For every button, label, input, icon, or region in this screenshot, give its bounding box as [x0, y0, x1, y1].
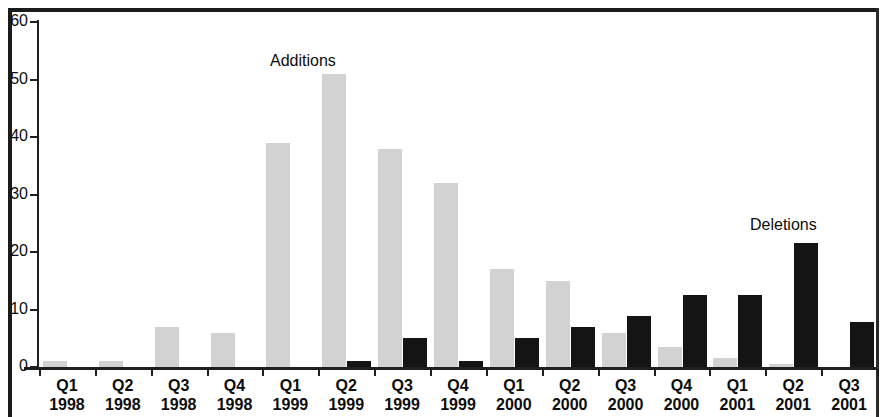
bar-group: [709, 0, 765, 370]
bar-deletions: [850, 322, 874, 367]
x-label-year: 1998: [39, 395, 95, 414]
x-label-year: 1998: [207, 395, 263, 414]
x-axis-label-q1-1998: Q11998: [39, 376, 95, 414]
x-label-quarter: Q2: [318, 376, 374, 395]
x-axis-label-q2-2001: Q22001: [765, 376, 821, 414]
bar-group: [765, 0, 821, 370]
y-axis-tick-0: [30, 366, 38, 368]
bar-additions: [43, 361, 67, 367]
x-axis-tick: [821, 368, 823, 376]
x-label-quarter: Q3: [151, 376, 207, 395]
x-label-quarter: Q2: [542, 376, 598, 395]
bar-group: [374, 0, 430, 370]
x-label-quarter: Q3: [374, 376, 430, 395]
x-axis-tick: [542, 368, 544, 376]
x-axis-label-q3-1998: Q31998: [151, 376, 207, 414]
bar-additions: [155, 327, 179, 367]
x-axis-tick: [39, 368, 41, 376]
x-axis-tick: [709, 368, 711, 376]
x-label-quarter: Q4: [430, 376, 486, 395]
x-axis-tick: [207, 368, 209, 376]
y-axis-tick-40: [30, 136, 38, 138]
bar-group: [39, 0, 95, 370]
y-axis-label-60: 60: [2, 13, 28, 29]
bar-group: [207, 0, 263, 370]
bar-deletions: [515, 338, 539, 367]
x-axis-label-q3-2001: Q32001: [821, 376, 877, 414]
bar-group: [430, 0, 486, 370]
x-axis-label-q1-2000: Q12000: [486, 376, 542, 414]
bar-additions: [322, 74, 346, 367]
bar-additions: [713, 358, 737, 367]
x-axis-tick: [598, 368, 600, 376]
y-axis-tick-30: [30, 194, 38, 196]
x-axis-tick: [765, 368, 767, 376]
x-label-year: 2000: [542, 395, 598, 414]
x-axis-ticks: [39, 368, 877, 376]
bar-deletions: [571, 327, 595, 367]
x-label-year: 2001: [765, 395, 821, 414]
x-axis-tick-labels: Q11998Q21998Q31998Q41998Q11999Q21999Q319…: [39, 376, 877, 417]
bar-additions: [602, 333, 626, 368]
bar-additions: [769, 364, 793, 367]
bar-chart-figure: 0102030405060 Q11998Q21998Q31998Q41998Q1…: [0, 0, 883, 417]
bar-group: [151, 0, 207, 370]
y-axis-tick-50: [30, 79, 38, 81]
bar-deletions: [347, 361, 371, 367]
bar-group: [821, 0, 877, 370]
x-label-quarter: Q1: [262, 376, 318, 395]
x-label-year: 1999: [262, 395, 318, 414]
bar-additions: [378, 149, 402, 368]
x-label-year: 1999: [318, 395, 374, 414]
bar-group: [542, 0, 598, 370]
y-axis-label-50: 50: [2, 71, 28, 87]
x-label-year: 1998: [151, 395, 207, 414]
x-label-year: 2000: [598, 395, 654, 414]
y-axis-tick-20: [30, 251, 38, 253]
x-axis-label-q4-2000: Q42000: [654, 376, 710, 414]
y-axis-tick-60: [30, 21, 38, 23]
x-axis-label-q2-1999: Q21999: [318, 376, 374, 414]
x-axis-tick: [430, 368, 432, 376]
bar-deletions: [683, 295, 707, 367]
x-axis-tick: [151, 368, 153, 376]
bar-deletions: [403, 338, 427, 367]
x-axis-tick: [486, 368, 488, 376]
x-axis-tick: [95, 368, 97, 376]
x-axis-label-q1-2001: Q12001: [709, 376, 765, 414]
y-axis-label-30: 30: [2, 186, 28, 202]
bar-additions: [266, 143, 290, 367]
x-label-year: 1998: [95, 395, 151, 414]
x-axis-label-q3-1999: Q31999: [374, 376, 430, 414]
bar-group: [598, 0, 654, 370]
bar-deletions: [794, 243, 818, 367]
bar-deletions: [627, 316, 651, 367]
bar-additions: [211, 333, 235, 368]
x-axis-label-q4-1999: Q41999: [430, 376, 486, 414]
x-label-quarter: Q2: [95, 376, 151, 395]
x-label-quarter: Q3: [821, 376, 877, 395]
x-axis-label-q3-2000: Q32000: [598, 376, 654, 414]
bar-group: [654, 0, 710, 370]
x-label-year: 2000: [654, 395, 710, 414]
x-label-year: 1999: [374, 395, 430, 414]
bar-additions: [490, 269, 514, 367]
x-axis-label-q1-1999: Q11999: [262, 376, 318, 414]
x-label-quarter: Q4: [654, 376, 710, 395]
bar-group: [486, 0, 542, 370]
y-axis-label-10: 10: [2, 301, 28, 317]
x-label-year: 2000: [486, 395, 542, 414]
x-axis-tick: [877, 368, 879, 376]
y-axis-tick-10: [30, 309, 38, 311]
x-label-year: 1999: [430, 395, 486, 414]
bar-group: [95, 0, 151, 370]
x-label-quarter: Q2: [765, 376, 821, 395]
x-label-quarter: Q3: [598, 376, 654, 395]
bar-series-container: [39, 0, 877, 370]
series-label-deletions: Deletions: [750, 216, 817, 234]
x-axis-label-q4-1998: Q41998: [207, 376, 263, 414]
bar-deletions: [459, 361, 483, 367]
x-label-quarter: Q4: [207, 376, 263, 395]
bar-additions: [434, 183, 458, 367]
y-axis-label-20: 20: [2, 243, 28, 259]
